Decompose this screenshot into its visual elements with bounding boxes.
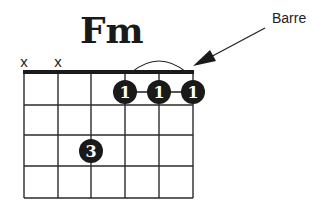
arrow-icon [193, 28, 265, 66]
finger-dot: 1 [181, 80, 205, 104]
svg-text:3: 3 [85, 142, 96, 161]
svg-text:1: 1 [187, 83, 198, 102]
finger-dot: 1 [147, 80, 171, 104]
svg-text:1: 1 [119, 83, 130, 102]
finger-dot: 3 [79, 139, 103, 163]
muted-string-markers: x x [20, 53, 62, 70]
svg-text:1: 1 [153, 83, 164, 102]
finger-dot: 1 [113, 80, 137, 104]
frets [24, 105, 193, 198]
nut [23, 70, 194, 74]
chord-diagram: x x 1 1 1 [0, 0, 331, 209]
muted-string-2: x [54, 53, 62, 70]
muted-string-1: x [20, 53, 28, 70]
